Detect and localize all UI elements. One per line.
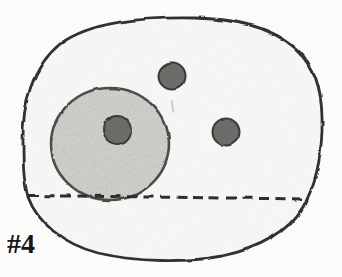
figure-label: #4 [7,228,35,259]
cell-diagram: #4 [0,0,342,277]
hand-drawn-group [23,18,322,261]
pencil-mark [172,101,173,112]
scanned-figure: #4 [0,0,342,277]
